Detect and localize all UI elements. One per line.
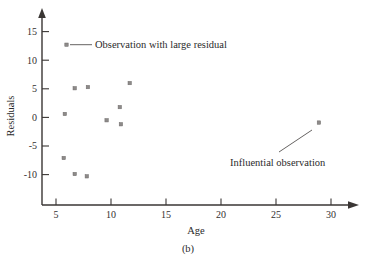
x-tick-label-5: 5 <box>54 209 59 220</box>
y-axis-title: Residuals <box>5 96 16 137</box>
data-point <box>85 175 88 178</box>
legend-marker-large-residual <box>65 43 68 46</box>
data-point <box>73 87 76 90</box>
y-tick-label-minus5: -5 <box>29 140 37 151</box>
legend-large-residual: Observation with large residual <box>65 39 227 50</box>
x-tick-label-15: 15 <box>161 209 171 220</box>
figure-panel: 15 10 5 0 -5 -10 5 10 15 20 25 <box>0 0 369 265</box>
x-axis-arrowhead <box>348 201 359 209</box>
scatter-plot: 15 10 5 0 -5 -10 5 10 15 20 25 <box>0 0 369 265</box>
y-tick-label-15: 15 <box>27 26 37 37</box>
figure-caption: (b) <box>182 243 195 255</box>
y-tick-label-5: 5 <box>32 83 37 94</box>
data-point <box>119 123 122 126</box>
data-point <box>317 121 320 124</box>
x-tick-label-25: 25 <box>271 209 281 220</box>
data-point <box>118 105 121 108</box>
data-point <box>73 172 76 175</box>
legend-label-large-residual: Observation with large residual <box>95 39 227 50</box>
x-tick-label-10: 10 <box>106 209 116 220</box>
x-axis-title: Age <box>187 225 205 236</box>
data-point <box>128 81 131 84</box>
annotation-influential-observation: Influential observation <box>230 130 326 168</box>
x-tick-label-20: 20 <box>216 209 226 220</box>
data-point <box>62 156 65 159</box>
y-axis-ticks: 15 10 5 0 -5 -10 <box>24 26 49 180</box>
data-point <box>63 112 66 115</box>
data-point <box>86 85 89 88</box>
y-tick-label-minus10: -10 <box>24 169 37 180</box>
x-tick-label-30: 30 <box>326 209 336 220</box>
x-axis-ticks: 5 10 15 20 25 30 <box>54 199 337 221</box>
data-point <box>105 119 108 122</box>
influential-leader-line <box>279 130 312 152</box>
y-axis-arrowhead <box>38 8 46 18</box>
y-tick-label-10: 10 <box>27 55 37 66</box>
y-tick-label-0: 0 <box>32 112 37 123</box>
annotation-label-influential-observation: Influential observation <box>230 157 326 168</box>
